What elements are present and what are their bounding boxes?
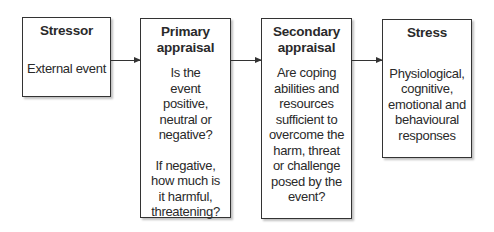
stress-box: Stress Physiological, cognitive, emotion… [382, 19, 472, 158]
secondary-appraisal-question: Are coping abilities and resources suffi… [262, 65, 351, 205]
stressor-title: Stressor [23, 23, 110, 39]
primary-appraisal-title: Primary appraisal [141, 24, 230, 55]
arrow-2 [231, 60, 261, 61]
stress-title: Stress [383, 25, 471, 41]
stress-responses: Physiological, cognitive, emotional and … [383, 66, 471, 144]
primary-appraisal-box: Primary appraisal Is the event positive,… [140, 18, 231, 218]
stressor-box: Stressor External event [22, 17, 111, 97]
primary-appraisal-question-1: Is the event positive, neutral or negati… [141, 65, 230, 143]
secondary-appraisal-title: Secondary appraisal [262, 24, 351, 55]
arrow-3 [352, 60, 382, 61]
primary-appraisal-question-2: If negative, how much is it harmful, thr… [141, 158, 230, 220]
arrow-1 [111, 60, 140, 61]
secondary-appraisal-box: Secondary appraisal Are coping abilities… [261, 18, 352, 219]
stressor-text: External event [23, 61, 110, 77]
